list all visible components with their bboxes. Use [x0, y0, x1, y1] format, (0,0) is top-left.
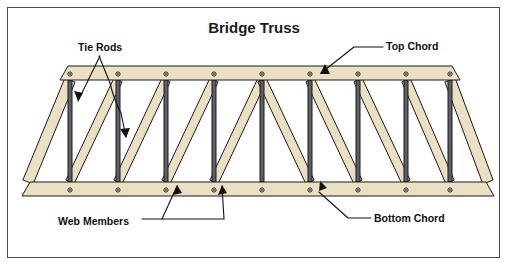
bolt-top-center: [117, 73, 119, 75]
arrowhead-tie-rods-2: [120, 128, 130, 138]
tie-rod: [404, 80, 408, 182]
web-member: [354, 78, 410, 184]
tie-rod: [68, 80, 72, 182]
truss-geometry: [22, 66, 494, 196]
truss-drawing: Bridge Truss Tie RodsTop ChordWe: [0, 0, 509, 268]
bolt-bottom-center: [405, 189, 407, 191]
tie-rod: [212, 80, 216, 182]
bolt-bottom-center: [213, 189, 215, 191]
bolt-bottom-center: [449, 189, 451, 191]
callout-label-bottom-chord: Bottom Chord: [374, 212, 445, 224]
tie-rod: [308, 80, 312, 182]
bolt-bottom-center: [165, 189, 167, 191]
tie-rod: [356, 80, 360, 182]
web-member: [306, 78, 362, 184]
web-member: [402, 78, 454, 184]
bolt-top-center: [165, 73, 167, 75]
tie-rod: [260, 80, 264, 182]
page-title: Bridge Truss: [208, 19, 300, 36]
web-member: [210, 78, 266, 184]
tie-rod: [164, 80, 168, 182]
callout-label-top-chord: Top Chord: [386, 40, 438, 52]
tie-rod: [448, 80, 452, 182]
web-member: [258, 78, 314, 184]
bottom-chord: [22, 182, 494, 196]
bolt-bottom-center: [261, 189, 263, 191]
callout-label-web-members: Web Members: [58, 215, 129, 227]
bolt-bottom-center: [69, 189, 71, 191]
bolt-top-center: [261, 73, 263, 75]
web-member: [66, 78, 122, 184]
tie-rod: [116, 80, 120, 182]
bolt-bottom-center: [357, 189, 359, 191]
bolt-bottom-center: [309, 189, 311, 191]
bolt-top-center: [449, 73, 451, 75]
bolt-top-center: [213, 73, 215, 75]
web-member: [162, 78, 218, 184]
bolt-top-center: [405, 73, 407, 75]
bolt-bottom-center: [117, 189, 119, 191]
bolt-top-center: [357, 73, 359, 75]
end-post-left: [23, 78, 75, 184]
bridge-truss-figure: Bridge Truss Tie RodsTop ChordWe: [0, 0, 509, 268]
callout-label-tie-rods: Tie Rods: [78, 41, 122, 53]
bolt-top-center: [69, 73, 71, 75]
bolt-top-center: [309, 73, 311, 75]
